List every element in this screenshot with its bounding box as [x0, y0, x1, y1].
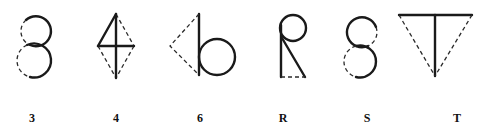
glyph-s-top-dashed [368, 27, 377, 46]
glyph-4-upper-right-edge [116, 14, 134, 46]
glyph-3-top-right-solid [26, 16, 51, 46]
glyph-label: R [279, 111, 288, 125]
glyph-label: 3 [29, 111, 35, 125]
glyph-s-bottom-dashed [344, 46, 356, 77]
glyph-s [344, 17, 377, 77]
glyph-t-dashed-left [399, 15, 435, 76]
glyph-t-dashed-right [435, 15, 472, 76]
glyph-label: 6 [197, 111, 203, 125]
glyph-label: S [364, 111, 371, 125]
glyph-4-lower-right-edge [116, 46, 134, 78]
glyph-4 [98, 14, 134, 78]
glyph-t [399, 15, 472, 76]
glyph-label: T [453, 111, 461, 125]
glyph-6-bowl [199, 39, 235, 75]
glyph-label: 4 [113, 111, 119, 125]
glyph-s-bottom-solid [356, 46, 376, 78]
glyph-s-top-solid [347, 17, 376, 47]
glyph-3-bottom-left-dashed [17, 45, 30, 77]
glyph-4-lower-left-edge [98, 46, 116, 78]
glyph-r-leg [282, 38, 305, 77]
glyph-3-top-left-dashed [21, 20, 30, 45]
glyph-r-bowl [280, 15, 306, 41]
glyph-4-upper-left-edge [98, 14, 116, 46]
glyph-6 [170, 14, 235, 75]
glyph-figure: 3 4 6 R S T [0, 0, 497, 137]
glyph-3-bottom-right-solid [27, 43, 51, 77]
glyph-r [280, 15, 306, 77]
glyph-3 [17, 16, 51, 77]
glyph-6-dashed-triangle [170, 14, 199, 75]
